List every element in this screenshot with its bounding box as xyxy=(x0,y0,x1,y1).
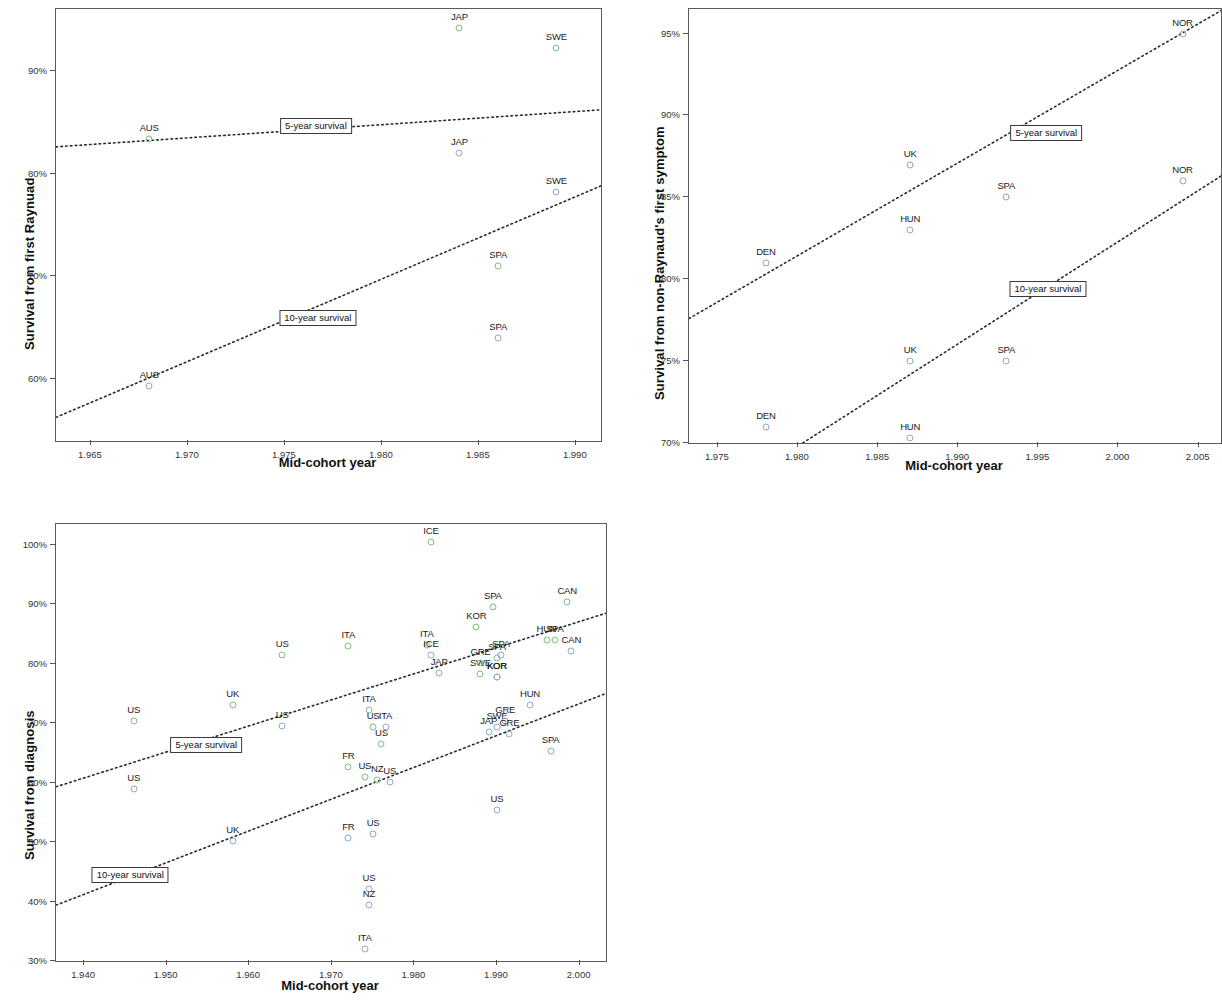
data-point-label: SPA xyxy=(489,321,507,332)
data-point-label: ICE xyxy=(423,638,438,649)
data-point xyxy=(506,730,513,737)
trend-line-10-year-survival xyxy=(56,186,601,417)
panel-survival-first-raynaud: Survival from first Raynuad AUSJAPSWESPA… xyxy=(0,0,620,490)
data-point xyxy=(493,673,500,680)
data-point xyxy=(553,189,560,196)
x-axis-tick-mark xyxy=(413,960,414,965)
x-axis-tick-mark xyxy=(83,960,84,965)
x-axis-tick-mark xyxy=(797,442,798,447)
x-axis-tick-label: 1.990 xyxy=(484,969,508,980)
data-point xyxy=(370,831,377,838)
data-point-label: US xyxy=(276,638,289,649)
data-point xyxy=(1003,194,1010,201)
y-axis-tick-mark xyxy=(683,278,688,279)
y-axis-tick-mark xyxy=(50,841,55,842)
annotation-callout: 5-year survival xyxy=(280,118,352,134)
data-point-label: SPA xyxy=(997,344,1015,355)
x-axis-tick-mark xyxy=(187,440,188,445)
y-axis-tick-label: 90% xyxy=(13,598,47,609)
data-point xyxy=(345,642,352,649)
x-axis-tick-mark xyxy=(284,440,285,445)
x-axis-tick-label: 1.985 xyxy=(466,449,490,460)
data-point xyxy=(146,383,153,390)
data-point-label: HUN xyxy=(520,688,540,699)
annotation-callout: 5-year survival xyxy=(1010,125,1082,141)
data-point-label: US xyxy=(358,760,371,771)
trend-line-5-year-survival xyxy=(689,11,1221,319)
data-point-label: SPA xyxy=(484,590,502,601)
data-point xyxy=(907,161,914,168)
x-axis-tick-label: 1.970 xyxy=(175,449,199,460)
data-point xyxy=(427,652,434,659)
x-axis-tick-mark xyxy=(90,440,91,445)
data-point-label: US xyxy=(491,793,504,804)
panel-survival-non-raynaud: Survival from non-Raynaud's first sympto… xyxy=(630,0,1220,490)
x-axis-tick-label: 1.995 xyxy=(1025,451,1049,462)
x-axis-tick-label: 1.980 xyxy=(402,969,426,980)
y-axis-tick-mark xyxy=(50,173,55,174)
y-axis-label: Survival from first Raynuad xyxy=(22,178,37,350)
x-axis-tick-label: 1.950 xyxy=(154,969,178,980)
data-point xyxy=(1003,358,1010,365)
data-point-label: AUS xyxy=(140,369,159,380)
x-axis-tick-label: 1.960 xyxy=(236,969,260,980)
data-point-label: NOR xyxy=(1172,17,1193,28)
x-axis-tick-mark xyxy=(331,960,332,965)
x-axis-tick-mark xyxy=(381,440,382,445)
data-point-label: FR xyxy=(342,750,354,761)
y-axis-tick-mark xyxy=(50,603,55,604)
y-axis-tick-label: 70% xyxy=(646,437,680,448)
data-point-label: NZ xyxy=(371,763,383,774)
y-axis-tick-mark xyxy=(683,442,688,443)
x-axis-tick-label: 1.940 xyxy=(71,969,95,980)
data-point-label: HUN xyxy=(900,421,920,432)
data-point xyxy=(568,647,575,654)
x-axis-tick-label: 1.990 xyxy=(563,449,587,460)
data-point xyxy=(477,671,484,678)
annotation-callout: 5-year survival xyxy=(170,737,242,753)
data-point-label: AUS xyxy=(140,122,159,133)
y-axis-tick-mark xyxy=(683,33,688,34)
x-axis-tick-label: 1.975 xyxy=(705,451,729,462)
data-point xyxy=(456,24,463,31)
y-axis-tick-mark xyxy=(50,70,55,71)
data-point xyxy=(551,636,558,643)
data-point-label: ITA xyxy=(362,693,375,704)
y-axis-tick-label: 70% xyxy=(13,270,47,281)
y-axis-tick-mark xyxy=(50,378,55,379)
data-point xyxy=(229,837,236,844)
data-point-label: SPA xyxy=(492,638,510,649)
plot-area: AUSJAPSWESPAAUSJAPSWESPA5-year survival1… xyxy=(55,8,602,442)
annotation-callout: 10-year survival xyxy=(279,310,356,326)
data-point xyxy=(361,773,368,780)
trend-lines xyxy=(56,524,606,961)
data-point-label: CAN xyxy=(557,585,576,596)
data-point-label: UK xyxy=(904,344,917,355)
data-point xyxy=(543,636,550,643)
data-point xyxy=(365,901,372,908)
data-point-label: NZ xyxy=(363,888,375,899)
data-point-label: US xyxy=(127,704,140,715)
y-axis-tick-label: 100% xyxy=(13,538,47,549)
y-axis-tick-label: 85% xyxy=(646,191,680,202)
data-point-label: SPA xyxy=(542,734,560,745)
y-axis-tick-label: 80% xyxy=(13,657,47,668)
data-point xyxy=(146,135,153,142)
x-axis-tick-mark xyxy=(717,442,718,447)
data-point-label: ITA xyxy=(379,710,392,721)
data-point xyxy=(762,259,769,266)
data-point-label: SWE xyxy=(546,175,567,186)
trend-lines xyxy=(689,9,1221,443)
x-axis-tick-label: 1.985 xyxy=(865,451,889,462)
data-point-label: CAN xyxy=(562,634,581,645)
x-axis-tick-label: 1.970 xyxy=(319,969,343,980)
data-point-label: HUN xyxy=(900,213,920,224)
x-axis-label: Mid-cohort year xyxy=(55,455,600,470)
x-axis-tick-mark xyxy=(166,960,167,965)
x-axis-tick-mark xyxy=(478,440,479,445)
trend-line-10-year-survival xyxy=(803,176,1221,443)
data-point-label: US xyxy=(276,709,289,720)
data-point-label: ICE xyxy=(423,525,438,536)
data-point xyxy=(345,834,352,841)
data-point-label: US xyxy=(383,765,396,776)
